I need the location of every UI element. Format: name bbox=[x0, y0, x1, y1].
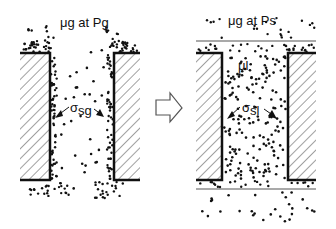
left-wall-hatch bbox=[20, 53, 50, 180]
left-panel: μg at Pg σsg bbox=[20, 15, 140, 199]
right-wall-hatch bbox=[288, 53, 316, 180]
arrowhead-icon bbox=[55, 110, 63, 118]
diagram-canvas: μg at Pg σsg μg at Ps μl σsl bbox=[0, 0, 336, 229]
left-wall-hatch bbox=[196, 53, 222, 180]
arrowhead-icon bbox=[96, 109, 104, 117]
transition-arrow-icon bbox=[156, 93, 182, 122]
right-top-label: μg at Ps bbox=[228, 13, 276, 28]
pore-condensation-diagram: μg at Pg σsg μg at Ps μl σsl bbox=[0, 0, 336, 229]
right-wall-hatch bbox=[114, 53, 140, 180]
sigma-sg-label: σsg bbox=[70, 100, 92, 118]
right-panel: μg at Ps μl σsl bbox=[196, 13, 316, 223]
mu-liquid-label: μl bbox=[238, 58, 248, 73]
left-top-label: μg at Pg bbox=[60, 15, 109, 30]
sigma-sl-label: σsl bbox=[242, 100, 260, 118]
